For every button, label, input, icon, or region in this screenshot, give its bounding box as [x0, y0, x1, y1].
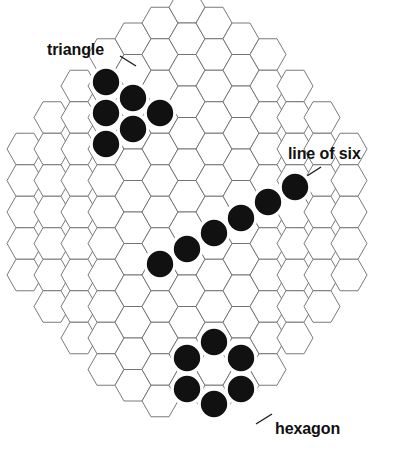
- stone-line-of-six[interactable]: [255, 189, 281, 215]
- hex-cell[interactable]: [331, 196, 367, 228]
- stone-triangle[interactable]: [93, 131, 119, 157]
- hex-board-figure: triangle line of six hexagon: [0, 0, 410, 476]
- hex-cell[interactable]: [304, 102, 340, 134]
- stone-triangle[interactable]: [93, 69, 119, 95]
- stone-line-of-six[interactable]: [282, 174, 308, 200]
- stone-hexagon[interactable]: [174, 376, 200, 402]
- stone-hexagon[interactable]: [201, 391, 227, 417]
- stone-triangle[interactable]: [147, 100, 173, 126]
- stone-line-of-six[interactable]: [228, 205, 254, 231]
- hex-cell[interactable]: [304, 291, 340, 323]
- stone-hexagon[interactable]: [201, 329, 227, 355]
- stone-triangle[interactable]: [120, 85, 146, 111]
- hex-board-canvas: [0, 0, 410, 476]
- stone-triangle[interactable]: [93, 100, 119, 126]
- stone-line-of-six[interactable]: [174, 236, 200, 262]
- stone-line-of-six[interactable]: [201, 220, 227, 246]
- hex-cell[interactable]: [331, 165, 367, 197]
- annotation-label-hexagon: hexagon: [275, 421, 340, 437]
- hex-cell[interactable]: [331, 228, 367, 260]
- annotation-label-triangle: triangle: [47, 42, 104, 58]
- hex-cell[interactable]: [331, 259, 367, 291]
- stone-hexagon[interactable]: [174, 345, 200, 371]
- hex-cell[interactable]: [277, 70, 313, 102]
- annotation-label-line-of-six: line of six: [288, 146, 361, 162]
- stone-triangle[interactable]: [120, 116, 146, 142]
- hex-cell[interactable]: [277, 322, 313, 354]
- stone-hexagon[interactable]: [228, 376, 254, 402]
- stone-hexagon[interactable]: [228, 345, 254, 371]
- stone-line-of-six[interactable]: [147, 251, 173, 277]
- leader-line-hexagon: [256, 414, 272, 424]
